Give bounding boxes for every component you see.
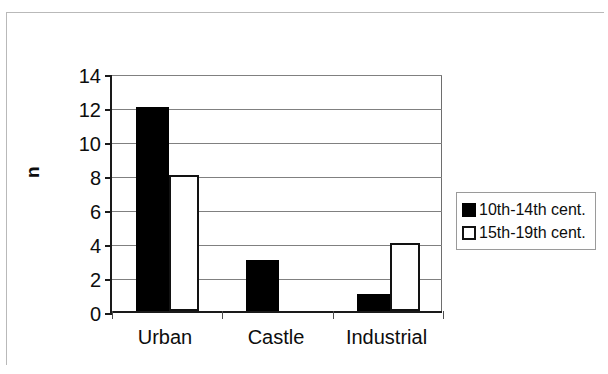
chart-legend: 10th-14th cent. 15th-19th cent. bbox=[456, 192, 596, 250]
legend-item-15th-19th[interactable]: 15th-19th cent. bbox=[462, 221, 591, 244]
legend-label-10th-14th: 10th-14th cent. bbox=[479, 202, 586, 218]
y-tick-mark-14 bbox=[105, 75, 112, 77]
y-tick-mark-2 bbox=[105, 279, 112, 281]
legend-label-15th-19th: 15th-19th cent. bbox=[479, 225, 586, 241]
bar-industrial-10th-14th[interactable] bbox=[357, 294, 390, 311]
y-tick-label-12: 12 bbox=[61, 100, 101, 120]
x-tick-mark-0 bbox=[112, 311, 113, 319]
y-tick-label-8: 8 bbox=[61, 168, 101, 188]
y-tick-mark-10 bbox=[105, 143, 112, 145]
bar-urban-10th-14th[interactable] bbox=[136, 107, 169, 311]
gridline-14 bbox=[112, 75, 442, 76]
y-tick-label-2: 2 bbox=[61, 270, 101, 290]
x-tick-mark-1 bbox=[222, 311, 223, 319]
y-tick-mark-4 bbox=[105, 245, 112, 247]
legend-item-10th-14th[interactable]: 10th-14th cent. bbox=[462, 198, 591, 221]
legend-swatch-outlined-square-icon bbox=[462, 226, 476, 240]
y-tick-label-14: 14 bbox=[61, 66, 101, 86]
plot-area: 14 12 10 8 6 4 2 0 bbox=[110, 75, 442, 313]
x-category-label-urban: Urban bbox=[110, 327, 220, 347]
x-tick-mark-3 bbox=[443, 311, 444, 319]
x-category-label-castle: Castle bbox=[221, 327, 331, 347]
y-tick-label-4: 4 bbox=[61, 236, 101, 256]
bar-industrial-15th-19th[interactable] bbox=[390, 243, 420, 311]
bar-chart-figure: n 14 12 10 8 6 4 2 0 bbox=[0, 0, 608, 374]
y-tick-label-0: 0 bbox=[61, 304, 101, 324]
y-tick-mark-8 bbox=[105, 177, 112, 179]
y-tick-mark-0 bbox=[105, 313, 112, 315]
y-tick-mark-12 bbox=[105, 109, 112, 111]
x-category-label-industrial: Industrial bbox=[331, 327, 442, 347]
y-tick-label-6: 6 bbox=[61, 202, 101, 222]
legend-swatch-filled-square-icon bbox=[462, 203, 476, 217]
plot-right-rule bbox=[441, 75, 442, 311]
y-tick-mark-6 bbox=[105, 211, 112, 213]
y-tick-label-10: 10 bbox=[61, 134, 101, 154]
bar-castle-10th-14th[interactable] bbox=[246, 260, 279, 311]
bar-urban-15th-19th[interactable] bbox=[169, 175, 199, 311]
y-axis-title: n bbox=[22, 166, 44, 178]
x-tick-mark-2 bbox=[333, 311, 334, 319]
